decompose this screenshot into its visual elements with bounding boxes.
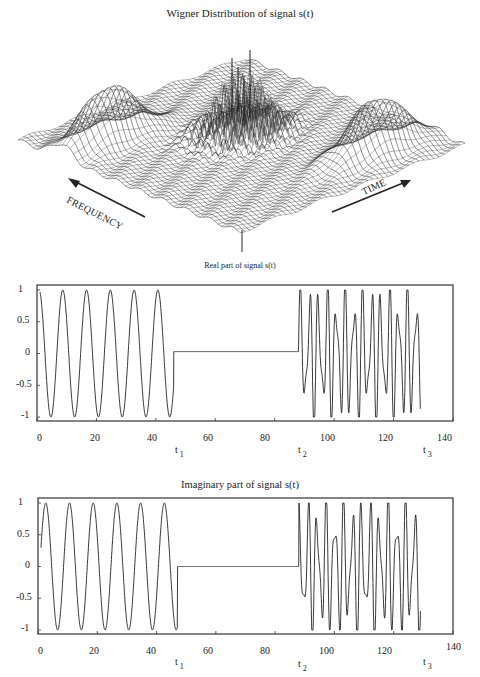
imag-signal-line	[41, 503, 420, 630]
x-tick: 60	[203, 432, 213, 443]
y-tick: -1	[21, 622, 29, 633]
t3-marker: t3	[423, 444, 432, 459]
x-tick: 100	[319, 645, 334, 656]
x-tick: 140	[437, 432, 452, 443]
x-tick: 0	[37, 432, 42, 443]
y-tick: -0.5	[16, 591, 32, 602]
x-tick: 40	[146, 645, 156, 656]
plot-area	[37, 285, 453, 421]
x-tick: 80	[260, 432, 270, 443]
y-tick: 0	[25, 346, 30, 357]
imag-plot-title: Imaginary part of signal s(t)	[0, 479, 480, 490]
y-tick: -0.5	[16, 378, 32, 389]
t2-marker: t2	[298, 658, 307, 673]
x-tick: 40	[147, 432, 157, 443]
x-tick: 140	[446, 641, 461, 652]
t3-marker: t3	[423, 656, 432, 671]
y-tick: 0.5	[17, 314, 30, 325]
x-tick: 20	[89, 645, 99, 656]
y-tick: 1	[18, 496, 23, 507]
x-tick: 100	[320, 432, 335, 443]
y-tick: 1	[18, 283, 23, 294]
x-tick: 0	[38, 645, 43, 656]
real-part-line-chart	[0, 0, 480, 677]
x-tick: 80	[260, 645, 270, 656]
x-tick: 120	[378, 432, 393, 443]
x-tick: 120	[377, 645, 392, 656]
x-tick: 60	[203, 645, 213, 656]
t2-marker: t2	[298, 444, 307, 459]
t1-marker: t1	[175, 444, 184, 459]
t1-marker: t1	[175, 656, 184, 671]
y-tick: 0	[25, 559, 30, 570]
y-tick: 0.5	[17, 528, 30, 539]
y-tick: -1	[21, 409, 29, 420]
plot-area	[38, 498, 453, 634]
real-signal-line	[40, 290, 420, 417]
x-tick: 20	[90, 432, 100, 443]
